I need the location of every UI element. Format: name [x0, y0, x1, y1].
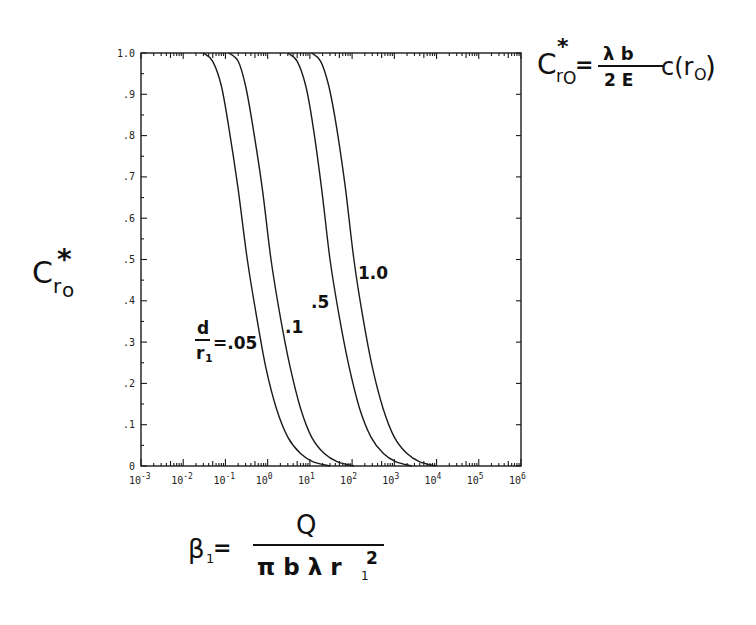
svg-text:Q: Q: [296, 510, 316, 540]
y-tick-label: .8: [123, 130, 135, 141]
svg-text:o: o: [62, 278, 74, 302]
plot-frame: [141, 53, 521, 466]
svg-text:*: *: [57, 243, 72, 276]
x-axis-ticks: 10-310-210-1100101102103104105106: [129, 53, 526, 486]
y-axis-ticks: 0.1.2.3.4.5.6.7.8.91.0: [117, 48, 521, 472]
x-tick-label: 103: [382, 472, 399, 486]
x-tick-label: 102: [340, 472, 357, 486]
curve-label-d-r1-10: 1.0: [358, 263, 388, 283]
svg-text:=: =: [213, 535, 231, 560]
y-tick-label: .9: [123, 89, 135, 100]
chart: 0.1.2.3.4.5.6.7.8.91.0 10-310-210-110010…: [0, 0, 756, 625]
curve-label-d-r1-1: .1: [285, 317, 303, 337]
y-tick-label: 1.0: [117, 48, 135, 59]
x-tick-label: 105: [467, 472, 484, 486]
y-tick-label: .3: [123, 337, 135, 348]
svg-text:2 E: 2 E: [604, 70, 633, 90]
y-tick-label: .7: [123, 171, 135, 182]
x-tick-label: 101: [298, 472, 315, 486]
svg-text:C: C: [537, 48, 557, 81]
svg-text:c(r: c(r: [661, 53, 694, 81]
svg-text:*: *: [557, 34, 569, 59]
y-tick-label: .4: [123, 295, 135, 306]
y-axis-label: C * r o: [32, 243, 74, 302]
x-tick-label: 104: [425, 472, 442, 486]
svg-text:=: =: [575, 52, 593, 77]
x-tick-label: 10-3: [129, 472, 151, 486]
y-tick-label: .1: [123, 419, 135, 430]
svg-text:r: r: [196, 343, 205, 363]
y-tick-label: .5: [123, 254, 135, 265]
svg-text:β: β: [188, 534, 205, 564]
svg-text:2: 2: [366, 548, 378, 568]
svg-text:π b λ r: π b λ r: [257, 554, 342, 580]
curve-series-2: [288, 53, 412, 466]
svg-text:): ): [705, 51, 716, 84]
curve-label-d-r1-5: .5: [311, 292, 329, 312]
svg-text:r: r: [556, 66, 563, 86]
svg-text:d: d: [197, 318, 209, 338]
svg-text:1: 1: [361, 569, 369, 583]
x-tick-label: 10-2: [171, 472, 193, 486]
x-axis-label: β 1 = Q π b λ r 1 2: [188, 510, 384, 583]
formula-annotation: C * r O = λ b 2 E c(r O ): [537, 34, 716, 90]
curves: [203, 53, 435, 466]
y-tick-label: 0: [129, 461, 135, 472]
y-tick-label: .2: [123, 378, 135, 389]
y-tick-label: .6: [123, 213, 135, 224]
svg-text:1: 1: [205, 352, 213, 365]
svg-text:C: C: [32, 255, 53, 290]
svg-text:λ b: λ b: [603, 43, 634, 64]
curve-label-d-r1-05: d r 1 =.05: [195, 318, 257, 365]
x-tick-label: 106: [509, 472, 526, 486]
x-tick-label: 100: [256, 472, 273, 486]
svg-text:r: r: [53, 274, 62, 298]
svg-text:=.05: =.05: [213, 333, 257, 353]
x-tick-label: 10-1: [213, 472, 235, 486]
